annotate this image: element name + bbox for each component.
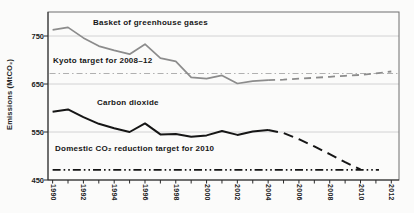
- series-carbon-dioxide: [53, 109, 269, 136]
- x-tick-label-2008: 2008: [327, 184, 334, 201]
- x-tick-label-1998: 1998: [173, 184, 180, 201]
- x-tick-label-2002: 2002: [234, 184, 241, 201]
- series-basket-projection: [268, 72, 391, 81]
- y-tick-label-650: 650: [24, 80, 44, 89]
- series-carbon-dioxide-projection: [268, 130, 360, 169]
- x-tick-label-2012: 2012: [388, 184, 395, 201]
- series-label-basket-of-greenhouse-gases: Basket of greenhouse gases: [93, 18, 208, 27]
- series-label-domestic-target: Domestic CO₂ reduction target for 2010: [55, 144, 214, 153]
- y-tick-label-550: 550: [24, 128, 44, 137]
- y-axis-title: Emissions (MtCO₂): [5, 59, 14, 130]
- emissions-chart-figure: Emissions (MtCO₂) Basket of greenhouse g…: [0, 0, 414, 213]
- y-tick-label-750: 750: [24, 32, 44, 41]
- x-tick-label-1990: 1990: [50, 184, 57, 201]
- x-tick-label-2004: 2004: [265, 184, 272, 201]
- x-tick-label-1994: 1994: [111, 184, 118, 201]
- series-label-kyoto-target: Kyoto target for 2008–12: [53, 56, 152, 65]
- x-tick-label-2010: 2010: [358, 184, 365, 201]
- x-tick-label-2006: 2006: [296, 184, 303, 201]
- x-tick-label-1992: 1992: [80, 184, 87, 201]
- emissions-chart-plot: [0, 0, 414, 213]
- x-tick-label-1996: 1996: [142, 184, 149, 201]
- x-tick-label-2000: 2000: [204, 184, 211, 201]
- y-tick-label-450: 450: [24, 176, 44, 185]
- plot-frame: [48, 12, 399, 180]
- series-label-carbon-dioxide: Carbon dioxide: [97, 98, 159, 107]
